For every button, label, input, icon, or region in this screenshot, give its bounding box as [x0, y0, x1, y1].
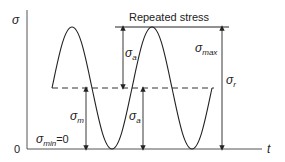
- sigma-min-label: σmin=0: [36, 132, 69, 148]
- diagram-title: Repeated stress: [129, 11, 210, 23]
- y-axis-label: σ: [12, 13, 20, 27]
- sigma-a-lower-label: σa: [129, 109, 141, 125]
- sigma-m-label: σm: [70, 109, 84, 125]
- sigma-r-label: σr: [226, 73, 236, 89]
- origin-label: 0: [14, 143, 20, 155]
- repeated-stress-diagram: Repeated stress σ t 0 σa σm σa σmax σr σ…: [0, 0, 285, 162]
- x-axis-label: t: [267, 142, 271, 156]
- sigma-a-upper-label: σa: [125, 46, 137, 62]
- sigma-max-label: σmax: [195, 41, 218, 57]
